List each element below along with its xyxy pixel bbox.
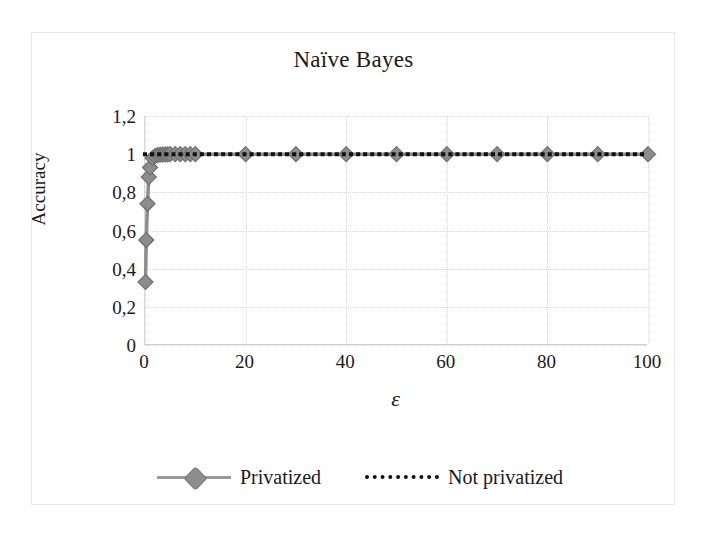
chart-title: Naïve Bayes [0, 47, 707, 73]
x-tick-label: 20 [210, 352, 280, 371]
y-tick-label: 0,4 [80, 260, 136, 279]
y-axis-tick-labels: 00,20,40,60,811,2 [76, 116, 136, 345]
series-layer [145, 116, 648, 345]
y-tick-label: 1 [80, 145, 136, 164]
y-tick-label: 1,2 [80, 107, 136, 126]
legend-entry-privatized: Privatized [157, 466, 321, 489]
plot-area [144, 116, 647, 345]
legend-marker-privatized-icon [157, 469, 231, 485]
gridline-horizontal [145, 345, 647, 346]
x-tick-label: 40 [310, 352, 380, 371]
x-tick-label: 100 [612, 352, 682, 371]
legend-label-not-privatized: Not privatized [448, 466, 563, 489]
y-axis-title: Accuracy [28, 114, 50, 264]
chart-figure: Naïve Bayes Accuracy 00,20,40,60,811,2 0… [0, 0, 707, 543]
y-tick-label: 0,2 [80, 298, 136, 317]
x-axis-title: ε [144, 386, 647, 412]
x-axis-tick-labels: 020406080100 [144, 352, 647, 376]
legend-entry-not-privatized: Not privatized [365, 466, 563, 489]
y-tick-label: 0,8 [80, 183, 136, 202]
legend-marker-not-privatized-icon [365, 469, 439, 485]
x-tick-label: 80 [511, 352, 581, 371]
x-tick-label: 60 [411, 352, 481, 371]
y-tick-label: 0,6 [80, 222, 136, 241]
chart-legend: Privatized Not privatized [140, 462, 580, 492]
legend-label-privatized: Privatized [240, 466, 321, 489]
series-line-privatized [146, 154, 648, 282]
x-tick-label: 0 [109, 352, 179, 371]
